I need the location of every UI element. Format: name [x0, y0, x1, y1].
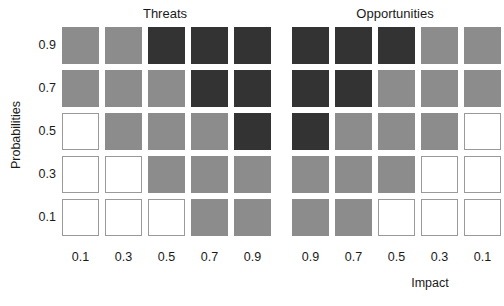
heatmap-cell — [191, 27, 228, 64]
y-axis-tick-0-5: 0.5 — [26, 113, 56, 150]
heatmap-cell — [234, 199, 271, 236]
heatmap-cell — [378, 156, 415, 193]
heatmap-cell — [421, 199, 458, 236]
x-axis-tick-0-9: 0.9 — [234, 248, 271, 266]
y-axis-tick-0-3: 0.3 — [26, 156, 56, 193]
heatmap-cell — [105, 199, 142, 236]
heatmap-cell — [378, 70, 415, 107]
y-axis-tick-labels: 0.90.70.50.30.1 — [26, 27, 56, 240]
x-axis-title: Impact — [380, 276, 480, 290]
heatmap-cell — [464, 199, 501, 236]
heatmap-cell — [292, 156, 329, 193]
y-axis-tick-0-7: 0.7 — [26, 70, 56, 107]
heatmap-cell — [191, 199, 228, 236]
heatmap-cell — [62, 156, 99, 193]
x-axis-tick-0-5: 0.5 — [378, 248, 415, 266]
heatmap-cell — [191, 156, 228, 193]
x-axis-tick-labels-opportunities: 0.90.70.50.30.1 — [292, 248, 498, 266]
heatmap-cell — [105, 113, 142, 150]
x-axis-tick-0-5: 0.5 — [148, 248, 185, 266]
heatmap-cell — [292, 70, 329, 107]
heatmap-cell — [105, 70, 142, 107]
heatmap-cell — [148, 27, 185, 64]
heatmap-cell — [335, 113, 372, 150]
x-axis-tick-0-3: 0.3 — [105, 248, 142, 266]
heatmap-cell — [234, 27, 271, 64]
heatmap-cell — [335, 156, 372, 193]
heatmap-cell — [148, 156, 185, 193]
x-axis-tick-labels-threats: 0.10.30.50.70.9 — [62, 248, 268, 266]
panel-title-threats: Threats — [62, 6, 268, 21]
heatmap-cell — [378, 113, 415, 150]
y-axis-tick-0-9: 0.9 — [26, 27, 56, 64]
heatmap-grid-opportunities — [292, 27, 498, 240]
heatmap-cell — [464, 156, 501, 193]
heatmap-cell — [62, 199, 99, 236]
heatmap-cell — [191, 113, 228, 150]
panel-title-opportunities: Opportunities — [292, 6, 498, 21]
heatmap-cell — [335, 27, 372, 64]
heatmap-cell — [148, 70, 185, 107]
heatmap-cell — [105, 156, 142, 193]
heatmap-cell — [378, 27, 415, 64]
x-axis-tick-0-7: 0.7 — [335, 248, 372, 266]
y-axis-title: Probabilities — [9, 80, 23, 190]
heatmap-cell — [292, 27, 329, 64]
heatmap-cell — [421, 70, 458, 107]
heatmap-cell — [335, 199, 372, 236]
heatmap-cell — [62, 113, 99, 150]
heatmap-cell — [421, 27, 458, 64]
x-axis-tick-0-7: 0.7 — [191, 248, 228, 266]
risk-matrix-figure: Threats Opportunities Probabilities 0.90… — [0, 0, 504, 306]
heatmap-cell — [335, 70, 372, 107]
heatmap-cell — [234, 113, 271, 150]
heatmap-cell — [292, 113, 329, 150]
heatmap-cell — [148, 113, 185, 150]
heatmap-grid-threats — [62, 27, 268, 240]
y-axis-tick-0-1: 0.1 — [26, 199, 56, 236]
heatmap-cell — [378, 199, 415, 236]
heatmap-cell — [292, 199, 329, 236]
x-axis-tick-0-9: 0.9 — [292, 248, 329, 266]
x-axis-tick-0-3: 0.3 — [421, 248, 458, 266]
heatmap-cell — [421, 156, 458, 193]
heatmap-cell — [105, 27, 142, 64]
x-axis-tick-0-1: 0.1 — [464, 248, 501, 266]
heatmap-cell — [62, 70, 99, 107]
heatmap-cell — [191, 70, 228, 107]
heatmap-cell — [464, 113, 501, 150]
x-axis-tick-0-1: 0.1 — [62, 248, 99, 266]
heatmap-cell — [62, 27, 99, 64]
heatmap-cell — [464, 70, 501, 107]
heatmap-cell — [464, 27, 501, 64]
heatmap-cell — [234, 70, 271, 107]
heatmap-cell — [148, 199, 185, 236]
heatmap-cell — [421, 113, 458, 150]
heatmap-cell — [234, 156, 271, 193]
